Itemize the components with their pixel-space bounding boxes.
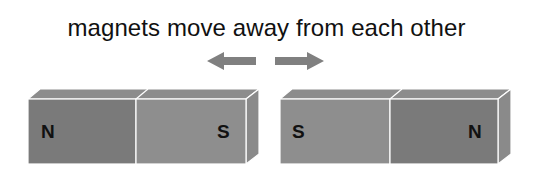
- north-pole-face: [390, 99, 498, 164]
- left-magnet: N S: [28, 89, 259, 164]
- magnet-diagram: N S S N: [0, 0, 533, 176]
- arrow-left-icon: [207, 52, 256, 70]
- pole-label-s: S: [217, 121, 230, 142]
- pole-label-s: S: [292, 121, 305, 142]
- right-magnet: S N: [280, 89, 511, 164]
- arrow-right-icon: [275, 52, 324, 70]
- pole-label-n: N: [41, 121, 55, 142]
- pole-label-n: N: [468, 121, 482, 142]
